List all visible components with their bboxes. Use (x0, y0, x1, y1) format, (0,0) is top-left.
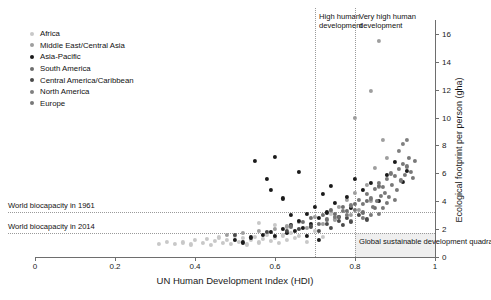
scatter-point (381, 185, 385, 189)
scatter-point (395, 188, 399, 192)
y-tick-12 (435, 90, 439, 91)
scatter-point (289, 213, 293, 217)
legend: AfricaMiddle East/Central AsiaAsia-Pacif… (30, 28, 134, 109)
x-tick-label-0.4: 0.4 (189, 262, 200, 271)
scatter-point (309, 216, 313, 220)
scatter-point (301, 220, 305, 224)
scatter-point (273, 227, 277, 231)
legend-item-asia-pacific[interactable]: Asia-Pacific (30, 51, 134, 63)
scatter-point (257, 221, 261, 225)
scatter-point (409, 170, 413, 174)
scatter-point (269, 188, 273, 192)
scatter-point (297, 234, 301, 238)
scatter-point (385, 156, 389, 160)
scatter-point (229, 242, 233, 246)
scatter-point (257, 240, 261, 244)
scatter-point (365, 192, 369, 196)
y-tick-label-6: 6 (442, 169, 446, 178)
scatter-point (383, 191, 387, 195)
scatter-point (317, 216, 321, 220)
scatter-point (193, 238, 197, 242)
legend-item-label: Africa (40, 29, 60, 38)
scatter-point (411, 175, 415, 179)
scatter-point (201, 241, 205, 245)
scatter-point (281, 196, 285, 200)
scatter-point (361, 202, 365, 206)
scatter-point (205, 237, 209, 241)
legend-item-south-america[interactable]: South America (30, 63, 134, 75)
scatter-point (257, 228, 261, 232)
y-axis-line (435, 20, 436, 258)
scatter-point (373, 187, 377, 191)
scatter-point (217, 235, 221, 239)
legend-item-north-america[interactable]: North America (30, 86, 134, 98)
y-tick-0 (435, 257, 439, 258)
scatter-point (361, 210, 365, 214)
scatter-point (387, 195, 391, 199)
scatter-point (189, 242, 193, 246)
legend-item-europe[interactable]: Europe (30, 98, 134, 110)
x-tick-label-0: 0 (33, 262, 37, 271)
scatter-point (157, 242, 161, 246)
legend-item-middle-east-central-asia[interactable]: Middle East/Central Asia (30, 40, 134, 52)
x-tick-label-0.6: 0.6 (269, 262, 280, 271)
scatter-point (403, 173, 407, 177)
scatter-point (301, 226, 305, 230)
scatter-point (321, 235, 325, 239)
y-tick-label-0: 0 (442, 253, 446, 262)
scatter-point (341, 223, 345, 227)
scatter-point (405, 138, 409, 142)
x-tick-0.8 (355, 257, 356, 261)
scatter-point (289, 224, 293, 228)
scatter-point (349, 220, 353, 224)
scatter-point (407, 156, 411, 160)
scatter-point (313, 205, 317, 209)
legend-item-label: Central America/Caribbean (40, 76, 134, 85)
scatter-point (377, 39, 381, 43)
scatter-point (265, 177, 269, 181)
x-tick-0.4 (195, 257, 196, 261)
scatter-point (317, 238, 321, 242)
scatter-point (329, 184, 333, 188)
y-tick-label-4: 4 (442, 197, 446, 206)
scatter-point (365, 199, 369, 203)
scatter-point (333, 201, 337, 205)
scatter-point (165, 240, 169, 244)
x-tick-label-0.8: 0.8 (349, 262, 360, 271)
y-tick-label-8: 8 (442, 141, 446, 150)
scatter-point (261, 237, 265, 241)
scatter-point (317, 228, 321, 232)
legend-item-central-america-caribbean[interactable]: Central America/Caribbean (30, 74, 134, 86)
scatter-point (213, 239, 217, 243)
vline-very-high-human-development (355, 8, 356, 257)
scatter-point (309, 224, 313, 228)
scatter-point (405, 164, 409, 168)
scatter-point (379, 194, 383, 198)
x-axis-line (35, 257, 435, 258)
scatter-point (329, 226, 333, 230)
scatter-point (393, 198, 397, 202)
vline-high-human-development (315, 8, 316, 257)
legend-dot-icon (30, 101, 34, 105)
scatter-point (390, 182, 394, 186)
scatter-point (273, 155, 277, 159)
legend-item-africa[interactable]: Africa (30, 28, 134, 40)
hline-biocapacity-2014 (8, 233, 435, 234)
legend-item-label: Asia-Pacific (40, 52, 81, 61)
scatter-point (365, 217, 369, 221)
scatter-point (369, 181, 373, 185)
scatter-point (325, 221, 329, 225)
scatter-point (321, 192, 325, 196)
y-tick-4 (435, 201, 439, 202)
legend-item-label: North America (40, 87, 89, 96)
quadrant-label: Global sustainable development quadrant (359, 237, 491, 246)
scatter-point (353, 115, 357, 119)
x-tick-0.6 (275, 257, 276, 261)
scatter-point (305, 212, 309, 216)
legend-dot-icon (30, 78, 34, 82)
scatter-point (209, 243, 213, 247)
y-tick-label-16: 16 (442, 29, 451, 38)
scatter-point (253, 235, 257, 239)
scatter-point (381, 206, 385, 210)
vline-label-very-high-human-development: Very high human development (359, 12, 421, 31)
